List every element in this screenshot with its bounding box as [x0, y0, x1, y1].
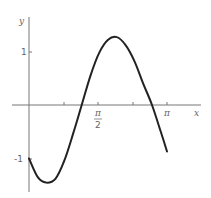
y-axis-label: y	[18, 16, 25, 26]
y-tick-label-1: 1	[21, 47, 27, 57]
chart: y x 1 -1 π 2 π	[0, 0, 211, 198]
x-tick-label-pi-half-num: π	[94, 108, 102, 118]
x-axis-label: x	[194, 108, 199, 118]
x-tick-label-pi: π	[163, 108, 171, 118]
y-tick-label-neg1: -1	[14, 154, 23, 164]
x-tick-label-pi-half-den: 2	[95, 120, 101, 130]
